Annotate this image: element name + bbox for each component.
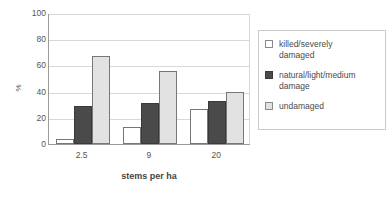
plot-area (48, 14, 250, 145)
bar (56, 139, 74, 144)
legend-swatch-icon (265, 40, 273, 48)
bar (74, 106, 92, 144)
legend: killed/severely damagednatural/light/med… (258, 30, 386, 130)
bar-group (190, 14, 244, 144)
y-axis-tick-label: 40 (20, 88, 46, 97)
x-axis-tick-label: 9 (121, 150, 177, 160)
legend-item[interactable]: natural/light/medium damage (265, 70, 379, 92)
x-axis-tick-label: 20 (188, 150, 244, 160)
legend-swatch-icon (265, 102, 273, 110)
legend-label: undamaged (279, 101, 324, 112)
y-axis-tick-label: 0 (20, 140, 46, 149)
y-axis-tick-labels: 100806040200 (18, 0, 46, 201)
y-axis-tick-label: 100 (20, 9, 46, 18)
legend-swatch-icon (265, 71, 273, 79)
legend-item[interactable]: killed/severely damaged (265, 39, 379, 61)
bar-group (123, 14, 177, 144)
bar (226, 92, 244, 144)
y-axis-tick-label: 60 (20, 61, 46, 70)
bar (159, 71, 177, 144)
bar (208, 101, 226, 144)
bar (123, 127, 141, 144)
bar-chart: % 100806040200 2.5920 stems per ha kille… (0, 0, 392, 201)
legend-item[interactable]: undamaged (265, 101, 379, 112)
legend-label: natural/light/medium damage (279, 70, 356, 92)
y-axis-tick-label: 20 (20, 114, 46, 123)
y-axis-tick-label: 80 (20, 35, 46, 44)
x-axis-tick-labels: 2.5920 (48, 150, 250, 160)
bar-groups (49, 14, 250, 144)
x-axis-tick-label: 2.5 (54, 150, 110, 160)
bar (92, 56, 110, 144)
x-axis-title: stems per ha (48, 171, 250, 181)
bar (141, 103, 159, 144)
bar-group (56, 14, 110, 144)
legend-label: killed/severely damaged (279, 39, 332, 61)
bar (190, 109, 208, 144)
